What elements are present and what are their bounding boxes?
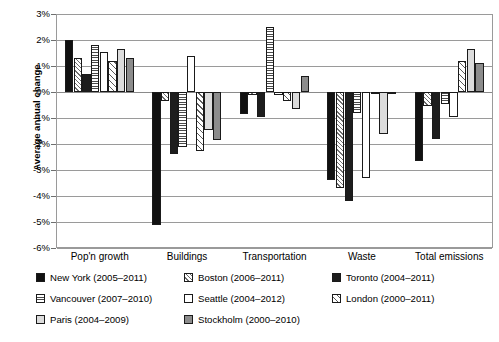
bar <box>187 56 195 92</box>
bar <box>336 92 344 188</box>
bar <box>213 92 221 140</box>
legend-label: Toronto (2004–2011) <box>346 272 434 283</box>
bar <box>371 92 379 94</box>
y-tick-label: -4% <box>6 191 50 201</box>
bar <box>362 92 370 178</box>
y-tick-label: 3% <box>6 9 50 19</box>
bar <box>196 92 204 151</box>
x-axis-label: Transportation <box>231 251 318 262</box>
bar <box>449 92 457 117</box>
bar-group <box>318 14 405 248</box>
bar <box>117 49 125 92</box>
legend-label: Vancouver (2007–2010) <box>50 293 152 304</box>
bar <box>178 92 186 147</box>
legend-label: New York (2005–2011) <box>50 272 147 283</box>
y-tick-label: -6% <box>6 243 50 253</box>
bars-layer <box>56 14 493 248</box>
x-axis-labels: Pop'n growthBuildingsTransportationWaste… <box>56 251 493 267</box>
y-tick-label: -2% <box>6 139 50 149</box>
bar <box>266 27 274 92</box>
legend-item[interactable]: Vancouver (2007–2010) <box>36 293 152 304</box>
chart-legend: New York (2005–2011)Boston (2006–2011)To… <box>36 272 486 334</box>
bar-group <box>406 14 493 248</box>
bar <box>415 92 423 161</box>
bar <box>388 92 396 94</box>
y-tick-label: -1% <box>6 113 50 123</box>
legend-swatch-icon <box>332 294 341 303</box>
bar <box>301 76 309 92</box>
bar <box>65 40 73 92</box>
legend-swatch-icon <box>184 315 193 324</box>
bar <box>91 45 99 92</box>
bar <box>283 92 291 101</box>
legend-item[interactable]: New York (2005–2011) <box>36 272 147 283</box>
bar <box>379 92 387 134</box>
legend-item[interactable]: Paris (2004–2009) <box>36 314 129 325</box>
x-axis-label: Buildings <box>143 251 230 262</box>
bar <box>204 92 212 130</box>
bar <box>126 58 134 92</box>
bar <box>292 92 300 109</box>
x-axis-label: Pop'n growth <box>56 251 143 262</box>
bar <box>257 92 265 117</box>
bar <box>467 49 475 92</box>
legend-item[interactable]: London (2000–2011) <box>332 293 434 304</box>
bar <box>327 92 335 180</box>
legend-item[interactable]: Seattle (2004–2012) <box>184 293 285 304</box>
bar <box>240 92 248 114</box>
bar <box>152 92 160 225</box>
legend-swatch-icon <box>36 294 45 303</box>
bar <box>475 63 483 92</box>
y-tick-label: -3% <box>6 165 50 175</box>
legend-label: Paris (2004–2009) <box>50 314 129 325</box>
bar <box>108 61 116 92</box>
legend-swatch-icon <box>332 273 341 282</box>
y-tick-label: 2% <box>6 35 50 45</box>
legend-item[interactable]: Stockholm (2000–2010) <box>184 314 300 325</box>
bar <box>82 74 90 92</box>
gridline <box>57 248 492 249</box>
bar <box>353 92 361 113</box>
legend-label: Stockholm (2000–2010) <box>198 314 300 325</box>
bar <box>74 58 82 92</box>
bar <box>274 92 282 95</box>
x-axis-label: Total emissions <box>406 251 493 262</box>
legend-swatch-icon <box>184 273 193 282</box>
legend-swatch-icon <box>36 315 45 324</box>
y-tick-label: -5% <box>6 217 50 227</box>
legend-item[interactable]: Toronto (2004–2011) <box>332 272 434 283</box>
bar-chart: Average annual change 3%2%1%0%-1%-2%-3%-… <box>0 0 499 342</box>
y-tick-mark <box>51 248 56 249</box>
legend-label: Seattle (2004–2012) <box>198 293 285 304</box>
legend-item[interactable]: Boston (2006–2011) <box>184 272 284 283</box>
legend-swatch-icon <box>184 294 193 303</box>
y-tick-label: 1% <box>6 61 50 71</box>
bar <box>248 92 256 95</box>
bar <box>345 92 353 201</box>
legend-label: London (2000–2011) <box>346 293 434 304</box>
bar-group <box>231 14 318 248</box>
bar-group <box>143 14 230 248</box>
bar <box>161 92 169 101</box>
legend-label: Boston (2006–2011) <box>198 272 284 283</box>
bar <box>432 92 440 139</box>
bar <box>100 52 108 92</box>
bar <box>441 92 449 104</box>
bar <box>458 61 466 92</box>
bar <box>170 92 178 154</box>
legend-swatch-icon <box>36 273 45 282</box>
bar-group <box>56 14 143 248</box>
y-tick-label: 0% <box>6 87 50 97</box>
x-axis-label: Waste <box>318 251 405 262</box>
bar <box>423 92 431 106</box>
